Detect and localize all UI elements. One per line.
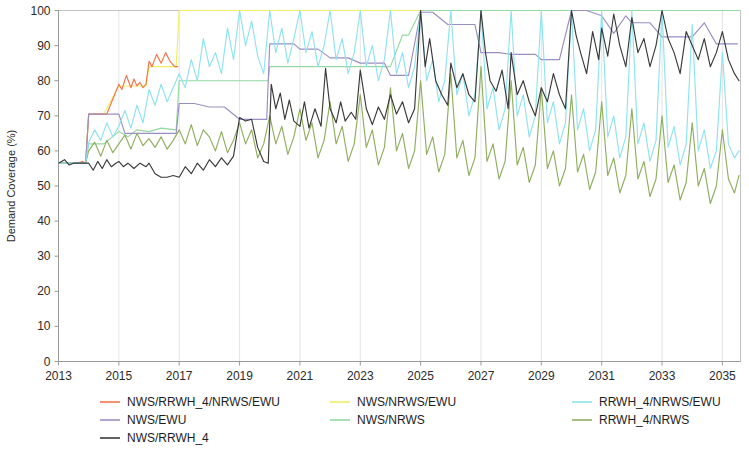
y-tick-label: 80 — [37, 74, 51, 88]
x-tick-label: 2013 — [45, 369, 72, 383]
x-tick-label: 2033 — [649, 369, 676, 383]
y-tick-label: 20 — [37, 284, 51, 298]
legend-label: NWS/NRWS — [357, 413, 425, 427]
legend-label: RRWH_4/NRWS/EWU — [599, 395, 721, 409]
y-tick-label: 100 — [30, 4, 50, 18]
x-tick-label: 2019 — [226, 369, 253, 383]
y-tick-label: 90 — [37, 39, 51, 53]
y-tick-label: 70 — [37, 109, 51, 123]
y-tick-label: 0 — [44, 355, 51, 369]
x-tick-label: 2021 — [287, 369, 314, 383]
legend-label: NWS/EWU — [127, 413, 186, 427]
legend-label: NWS/RRWH_4/NRWS/EWU — [127, 395, 280, 409]
x-tick-label: 2015 — [106, 369, 133, 383]
x-tick-label: 2027 — [468, 369, 495, 383]
y-axis-title: Demand Coverage (%) — [5, 130, 17, 243]
x-tick-label: 2029 — [528, 369, 555, 383]
series-line-nws-rrwh_4 — [59, 11, 739, 178]
x-tick-label: 2031 — [588, 369, 615, 383]
series-line-nws-rrwh_4-nrws-ewu — [59, 53, 178, 164]
series-group — [59, 11, 739, 204]
y-tick-label: 50 — [37, 179, 51, 193]
legend-label: NWS/RRWH_4 — [127, 431, 209, 445]
legend-label: RRWH_4/NRWS — [599, 413, 689, 427]
legend-label: NWS/NRWS/EWU — [357, 395, 456, 409]
y-tick-label: 30 — [37, 249, 51, 263]
y-tick-label: 40 — [37, 214, 51, 228]
chart-canvas: 0102030405060708090100201320152017201920… — [0, 0, 749, 460]
x-tick-label: 2025 — [407, 369, 434, 383]
y-tick-label: 10 — [37, 319, 51, 333]
demand-coverage-line-chart: 0102030405060708090100201320152017201920… — [0, 0, 749, 460]
x-tick-label: 2035 — [709, 369, 736, 383]
y-tick-label: 60 — [37, 144, 51, 158]
x-tick-label: 2023 — [347, 369, 374, 383]
x-tick-label: 2017 — [166, 369, 193, 383]
